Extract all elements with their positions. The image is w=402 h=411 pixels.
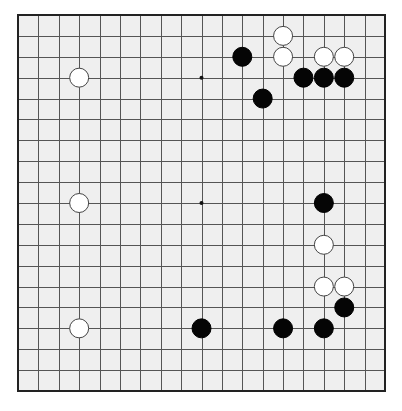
empty-intersection[interactable] [91, 6, 109, 24]
empty-intersection[interactable] [274, 69, 292, 87]
empty-intersection[interactable] [9, 236, 27, 254]
empty-intersection[interactable] [356, 110, 374, 128]
empty-intersection[interactable] [131, 236, 149, 254]
empty-intersection[interactable] [29, 131, 47, 149]
empty-intersection[interactable] [70, 6, 88, 24]
empty-intersection[interactable] [70, 298, 88, 316]
empty-intersection[interactable] [315, 110, 333, 128]
empty-intersection[interactable] [356, 361, 374, 379]
empty-intersection[interactable] [50, 6, 68, 24]
empty-intersection[interactable] [29, 236, 47, 254]
empty-intersection[interactable] [213, 6, 231, 24]
empty-intersection[interactable] [91, 48, 109, 66]
go-board[interactable] [0, 0, 402, 411]
empty-intersection[interactable] [172, 131, 190, 149]
empty-intersection[interactable] [213, 173, 231, 191]
empty-intersection[interactable] [111, 382, 129, 400]
empty-intersection[interactable] [335, 194, 353, 212]
empty-intersection[interactable] [274, 236, 292, 254]
empty-intersection[interactable] [376, 215, 394, 233]
empty-intersection[interactable] [50, 298, 68, 316]
empty-intersection[interactable] [152, 27, 170, 45]
empty-intersection[interactable] [356, 173, 374, 191]
empty-intersection[interactable] [233, 361, 251, 379]
empty-intersection[interactable] [356, 257, 374, 275]
empty-intersection[interactable] [70, 278, 88, 296]
empty-intersection[interactable] [29, 173, 47, 191]
empty-intersection[interactable] [274, 110, 292, 128]
empty-intersection[interactable] [131, 361, 149, 379]
empty-intersection[interactable] [131, 27, 149, 45]
empty-intersection[interactable] [172, 278, 190, 296]
empty-intersection[interactable] [233, 6, 251, 24]
empty-intersection[interactable] [376, 361, 394, 379]
empty-intersection[interactable] [213, 215, 231, 233]
empty-intersection[interactable] [356, 382, 374, 400]
empty-intersection[interactable] [50, 319, 68, 337]
empty-intersection[interactable] [131, 131, 149, 149]
empty-intersection[interactable] [274, 257, 292, 275]
empty-intersection[interactable] [376, 257, 394, 275]
empty-intersection[interactable] [213, 69, 231, 87]
empty-intersection[interactable] [91, 152, 109, 170]
empty-intersection[interactable] [315, 340, 333, 358]
empty-intersection[interactable] [254, 6, 272, 24]
empty-intersection[interactable] [131, 48, 149, 66]
empty-intersection[interactable] [111, 361, 129, 379]
empty-intersection[interactable] [193, 215, 211, 233]
empty-intersection[interactable] [91, 194, 109, 212]
empty-intersection[interactable] [274, 361, 292, 379]
empty-intersection[interactable] [131, 298, 149, 316]
empty-intersection[interactable] [274, 278, 292, 296]
empty-intersection[interactable] [274, 152, 292, 170]
empty-intersection[interactable] [254, 340, 272, 358]
empty-intersection[interactable] [376, 278, 394, 296]
empty-intersection[interactable] [152, 194, 170, 212]
empty-intersection[interactable] [376, 48, 394, 66]
empty-intersection[interactable] [91, 90, 109, 108]
empty-intersection[interactable] [233, 90, 251, 108]
empty-intersection[interactable] [376, 131, 394, 149]
empty-intersection[interactable] [294, 110, 312, 128]
empty-intersection[interactable] [335, 236, 353, 254]
empty-intersection[interactable] [131, 319, 149, 337]
empty-intersection[interactable] [335, 340, 353, 358]
empty-intersection[interactable] [111, 69, 129, 87]
empty-intersection[interactable] [111, 340, 129, 358]
empty-intersection[interactable] [9, 173, 27, 191]
empty-intersection[interactable] [233, 131, 251, 149]
empty-intersection[interactable] [172, 173, 190, 191]
empty-intersection[interactable] [152, 340, 170, 358]
empty-intersection[interactable] [152, 215, 170, 233]
empty-intersection[interactable] [91, 215, 109, 233]
empty-intersection[interactable] [111, 319, 129, 337]
empty-intersection[interactable] [315, 90, 333, 108]
empty-intersection[interactable] [213, 298, 231, 316]
empty-intersection[interactable] [91, 236, 109, 254]
empty-intersection[interactable] [50, 215, 68, 233]
empty-intersection[interactable] [152, 152, 170, 170]
empty-intersection[interactable] [70, 90, 88, 108]
empty-intersection[interactable] [91, 382, 109, 400]
empty-intersection[interactable] [29, 257, 47, 275]
empty-intersection[interactable] [274, 6, 292, 24]
empty-intersection[interactable] [356, 69, 374, 87]
empty-intersection[interactable] [193, 110, 211, 128]
empty-intersection[interactable] [213, 278, 231, 296]
empty-intersection[interactable] [111, 173, 129, 191]
empty-intersection[interactable] [193, 194, 211, 212]
empty-intersection[interactable] [315, 215, 333, 233]
empty-intersection[interactable] [91, 319, 109, 337]
empty-intersection[interactable] [294, 215, 312, 233]
empty-intersection[interactable] [315, 27, 333, 45]
empty-intersection[interactable] [213, 340, 231, 358]
empty-intersection[interactable] [213, 319, 231, 337]
empty-intersection[interactable] [50, 361, 68, 379]
empty-intersection[interactable] [213, 110, 231, 128]
empty-intersection[interactable] [9, 6, 27, 24]
empty-intersection[interactable] [50, 173, 68, 191]
empty-intersection[interactable] [376, 90, 394, 108]
empty-intersection[interactable] [50, 152, 68, 170]
empty-intersection[interactable] [29, 382, 47, 400]
empty-intersection[interactable] [254, 319, 272, 337]
